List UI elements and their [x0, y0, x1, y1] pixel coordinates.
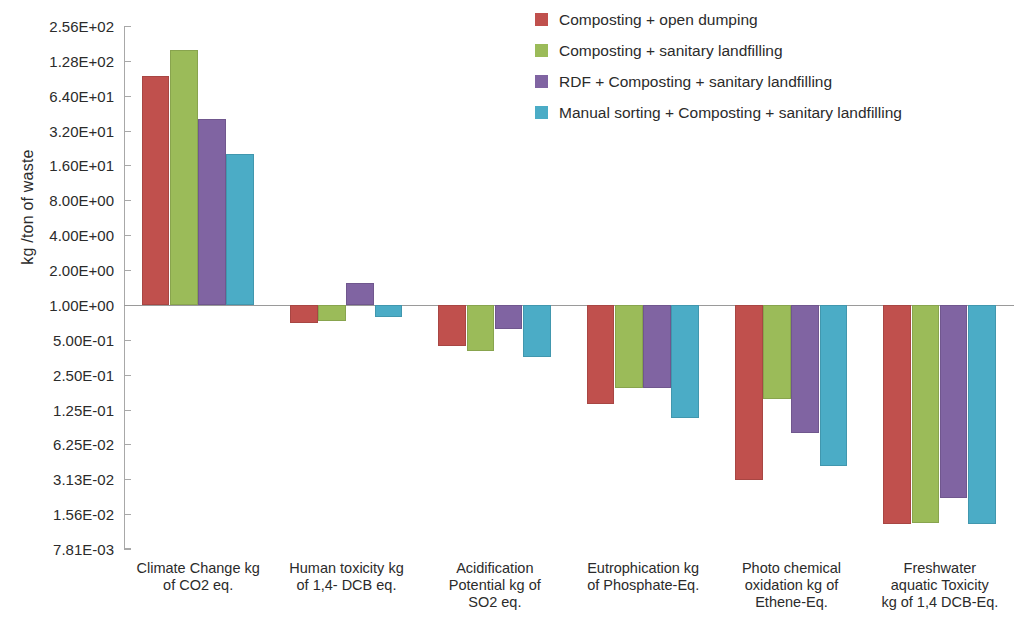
y-tick-mark [124, 549, 131, 550]
bar[interactable] [791, 305, 819, 433]
chart-legend: Composting + open dumpingComposting + sa… [535, 4, 1015, 128]
bar[interactable] [968, 305, 996, 524]
y-tick-label: 7.81E-03 [18, 541, 114, 558]
y-tick-label: 3.20E+01 [18, 122, 114, 139]
bar[interactable] [523, 305, 551, 357]
y-tick-label: 1.60E+01 [18, 157, 114, 174]
bar[interactable] [346, 283, 374, 305]
y-tick-label: 1.25E-01 [18, 401, 114, 418]
y-tick-label: 4.00E+00 [18, 227, 114, 244]
x-category-label-line: of CO2 eq. [118, 577, 278, 594]
x-category-label-line: of 1,4- DCB eq. [266, 577, 426, 594]
x-category-label-line: Acidification [415, 560, 575, 577]
x-category-label-line: oxidation kg of [711, 577, 871, 594]
bar[interactable] [142, 76, 170, 305]
bar[interactable] [912, 305, 940, 523]
bar[interactable] [671, 305, 699, 418]
legend-item[interactable]: RDF + Composting + sanitary landfilling [535, 66, 1015, 97]
bar-group [124, 26, 272, 549]
legend-item[interactable]: Composting + sanitary landfilling [535, 35, 1015, 66]
x-category-label-line: Potential kg of [415, 577, 575, 594]
bar-group [272, 26, 420, 549]
bar[interactable] [170, 50, 198, 305]
legend-item[interactable]: Composting + open dumping [535, 4, 1015, 35]
legend-label: Manual sorting + Composting + sanitary l… [559, 104, 902, 122]
y-tick-label: 2.56E+02 [18, 18, 114, 35]
bar[interactable] [615, 305, 643, 389]
y-axis-tick-labels: 2.56E+021.28E+026.40E+013.20E+011.60E+01… [18, 0, 114, 630]
x-category-label-line: Eutrophication kg [563, 560, 723, 577]
bar[interactable] [290, 305, 318, 323]
x-category-label-line: Human toxicity kg [266, 560, 426, 577]
legend-item[interactable]: Manual sorting + Composting + sanitary l… [535, 97, 1015, 128]
bar[interactable] [226, 154, 254, 305]
legend-label: RDF + Composting + sanitary landfilling [559, 73, 832, 91]
x-category-label: AcidificationPotential kg ofSO2 eq. [415, 560, 575, 611]
y-tick-label: 1.28E+02 [18, 52, 114, 69]
x-category-label: Photo chemicaloxidation kg ofEthene-Eq. [711, 560, 871, 611]
y-tick-label: 2.50E-01 [18, 366, 114, 383]
bar[interactable] [467, 305, 495, 351]
bar[interactable] [318, 305, 346, 322]
x-category-label: Human toxicity kgof 1,4- DCB eq. [266, 560, 426, 594]
bar[interactable] [883, 305, 911, 524]
chart-canvas: kg /ton of waste 2.56E+021.28E+026.40E+0… [0, 0, 1025, 630]
legend-swatch-icon [535, 106, 548, 119]
x-category-label-line: SO2 eq. [415, 594, 575, 611]
y-tick-label: 3.13E-02 [18, 471, 114, 488]
y-tick-label: 1.00E+00 [18, 296, 114, 313]
x-category-label-line: kg of 1,4 DCB-Eq. [860, 594, 1020, 611]
y-tick-label: 5.00E-01 [18, 331, 114, 348]
bar[interactable] [735, 305, 763, 481]
bar[interactable] [587, 305, 615, 404]
y-tick-label: 8.00E+00 [18, 192, 114, 209]
x-category-label-line: Freshwater [860, 560, 1020, 577]
y-tick-label: 6.25E-02 [18, 436, 114, 453]
legend-label: Composting + open dumping [559, 11, 758, 29]
x-category-label-line: of Phosphate-Eq. [563, 577, 723, 594]
x-category-label: Freshwateraquatic Toxicitykg of 1,4 DCB-… [860, 560, 1020, 611]
x-category-label-line: Ethene-Eq. [711, 594, 871, 611]
bar[interactable] [495, 305, 523, 329]
legend-swatch-icon [535, 75, 548, 88]
bar[interactable] [643, 305, 671, 389]
bar[interactable] [820, 305, 848, 466]
bar[interactable] [198, 119, 226, 305]
bar[interactable] [438, 305, 466, 346]
x-category-label: Climate Change kgof CO2 eq. [118, 560, 278, 594]
y-tick-label: 2.00E+00 [18, 262, 114, 279]
x-axis-category-labels: Climate Change kgof CO2 eq.Human toxicit… [124, 560, 1014, 630]
y-tick-label: 6.40E+01 [18, 87, 114, 104]
bar[interactable] [940, 305, 968, 498]
x-category-label-line: aquatic Toxicity [860, 577, 1020, 594]
legend-label: Composting + sanitary landfilling [559, 42, 783, 60]
bar[interactable] [375, 305, 403, 317]
legend-swatch-icon [535, 44, 548, 57]
legend-swatch-icon [535, 13, 548, 26]
x-category-label-line: Climate Change kg [118, 560, 278, 577]
y-tick-label: 1.56E-02 [18, 506, 114, 523]
x-category-label: Eutrophication kgof Phosphate-Eq. [563, 560, 723, 594]
bar[interactable] [763, 305, 791, 399]
x-category-label-line: Photo chemical [711, 560, 871, 577]
